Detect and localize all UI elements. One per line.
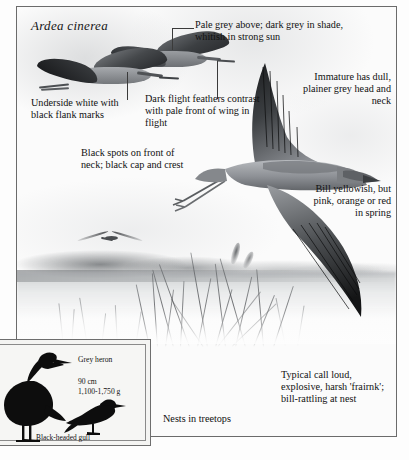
leader-pale-grey xyxy=(172,28,194,29)
inset-heron-weight: 1,100-1,750 g xyxy=(78,387,120,396)
leader-underside-white xyxy=(127,72,128,100)
illustration-page: Pale grey above; dark grey in shade, whi… xyxy=(0,0,409,460)
annotation-nests-in-treetops: Nests in treetops xyxy=(163,413,231,424)
annotation-dark-flight-feathers: Dark flight feathers contrast with pale … xyxy=(145,93,271,130)
annotation-immature: Immature has dull, plainer grey head and… xyxy=(299,71,391,108)
wing-lower xyxy=(36,52,101,86)
inset-inner-border: Grey heron 90 cm 1,100-1,750 g Black-hea… xyxy=(0,344,146,441)
grey-heron-silhouette xyxy=(0,347,74,443)
distant-flying-heron xyxy=(77,229,143,251)
size-comparison-inset: Grey heron 90 cm 1,100-1,750 g Black-hea… xyxy=(0,339,151,446)
annotation-bill: Bill yellowish, but pink, orange or red … xyxy=(309,183,391,220)
trailing-legs xyxy=(41,87,69,90)
inset-heron-label: Grey heron xyxy=(78,355,112,364)
annotation-black-spots: Black spots on front of neck; black cap … xyxy=(81,147,191,171)
annotation-pale-grey-above: Pale grey above; dark grey in shade, whi… xyxy=(195,19,375,43)
leader-pale-grey-drop xyxy=(172,28,173,50)
scientific-name: Ardea cinerea xyxy=(31,18,108,34)
inset-heron-length: 90 cm xyxy=(78,377,97,386)
annotation-underside-white: Underside white with black flank marks xyxy=(31,97,135,121)
annotation-call: Typical call loud, explosive, harsh 'fra… xyxy=(281,369,393,406)
inset-gull-label: Black-headed gull xyxy=(36,433,90,442)
